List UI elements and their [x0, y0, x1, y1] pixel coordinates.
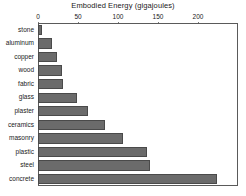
bar — [38, 38, 52, 48]
bar-row — [38, 37, 238, 51]
x-tick-label: 150 — [153, 13, 164, 20]
category-label-wood: wood — [18, 67, 36, 74]
bar — [38, 52, 57, 62]
x-tick-label: 100 — [113, 13, 124, 20]
bar-row — [38, 91, 238, 105]
category-label-stone: stone — [18, 27, 36, 34]
bar — [38, 79, 63, 89]
category-label-row: ceramics — [0, 118, 36, 132]
bar — [38, 133, 123, 143]
x-tick-label: 200 — [193, 13, 204, 20]
category-label-aluminum: aluminum — [6, 40, 36, 47]
bars-layer — [38, 23, 238, 186]
category-label-row: fabric — [0, 77, 36, 91]
category-label-glass: glass — [19, 94, 36, 101]
x-tick-label: 0 — [36, 13, 40, 20]
bar-row — [38, 23, 238, 37]
bar-row — [38, 104, 238, 118]
x-axis: 050100150200 — [38, 13, 238, 23]
category-label-plastic: plastic — [16, 149, 36, 156]
bar-row — [38, 118, 238, 132]
bar — [38, 93, 77, 103]
bar-row — [38, 145, 238, 159]
category-label-row: concrete — [0, 172, 36, 186]
bar — [38, 106, 88, 116]
category-label-row: plaster — [0, 104, 36, 118]
category-label-row: plastic — [0, 145, 36, 159]
category-label-row: copper — [0, 50, 36, 64]
bar — [38, 25, 42, 35]
bar-row — [38, 159, 238, 173]
bar-row — [38, 172, 238, 186]
category-label-plaster: plaster — [14, 108, 36, 115]
bar-row — [38, 50, 238, 64]
bar — [38, 174, 217, 184]
category-label-row: steel — [0, 159, 36, 173]
category-label-ceramics: ceramics — [8, 122, 36, 129]
x-tick-label: 50 — [74, 13, 81, 20]
category-label-masonry: masonry — [9, 135, 36, 142]
category-label-steel: steel — [20, 162, 36, 169]
category-label-row: masonry — [0, 132, 36, 146]
category-label-fabric: fabric — [18, 81, 36, 88]
category-axis-labels: stonealuminumcopperwoodfabricglassplaste… — [0, 23, 36, 186]
bar — [38, 147, 147, 157]
category-label-row: stone — [0, 23, 36, 37]
chart-title: Embodied Energy (gigajoules) — [0, 1, 246, 10]
category-label-row: glass — [0, 91, 36, 105]
embodied-energy-bar-chart: Embodied Energy (gigajoules) 05010015020… — [0, 0, 246, 196]
bar-row — [38, 77, 238, 91]
bar-row — [38, 64, 238, 78]
bar — [38, 120, 105, 130]
bar-row — [38, 132, 238, 146]
bar — [38, 65, 62, 75]
category-label-row: wood — [0, 64, 36, 78]
category-label-copper: copper — [14, 54, 36, 61]
bar — [38, 160, 150, 170]
category-label-concrete: concrete — [9, 176, 36, 183]
category-label-row: aluminum — [0, 37, 36, 51]
